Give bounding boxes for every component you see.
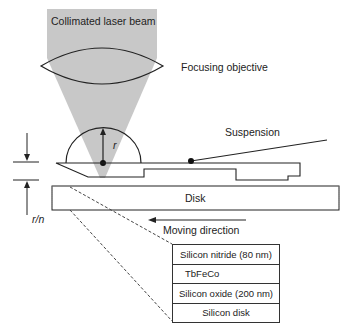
up-arrow-icon <box>24 181 30 188</box>
radius-label: r <box>113 140 117 151</box>
gap-label: r/n <box>32 214 44 225</box>
suspension-label: Suspension <box>225 127 280 138</box>
down-arrow-icon <box>24 154 30 161</box>
laser-beam-label: Collimated laser beam <box>51 16 155 27</box>
suspension-arm <box>191 140 327 161</box>
layer-silicon-disk: Silicon disk <box>173 304 279 323</box>
layer-tbfeco: TbFeCo <box>173 265 279 285</box>
layer-silicon-oxide: Silicon oxide (200 nm) <box>173 284 279 304</box>
laser-beam <box>47 9 157 178</box>
layer-stack: Silicon nitride (80 nm) TbFeCo Silicon o… <box>172 244 280 323</box>
slider <box>56 163 300 180</box>
moving-direction-label: Moving direction <box>163 225 239 236</box>
left-arrow-icon <box>148 217 156 223</box>
objective-label: Focusing objective <box>181 62 268 73</box>
disk-label: Disk <box>185 193 205 204</box>
layer-silicon-nitride: Silicon nitride (80 nm) <box>173 245 279 265</box>
